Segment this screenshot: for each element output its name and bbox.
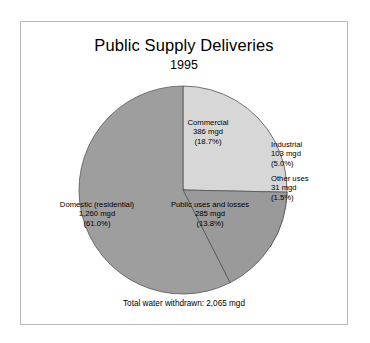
pie-label-other-uses: Other uses 31 mgd (1.5%) <box>271 174 333 202</box>
pie-label-public-uses-value: 285 mgd <box>164 209 256 218</box>
pie-label-domestic-name: Domestic (residential) <box>43 200 151 209</box>
pie-label-commercial-value: 386 mgd <box>169 127 247 136</box>
pie-label-commercial: Commercial 386 mgd (18.7%) <box>169 118 247 146</box>
pie-label-other-uses-name: Other uses <box>271 174 333 183</box>
pie-label-industrial: Industrial 103 mgd (5.0%) <box>271 140 333 168</box>
chart-footer-total: Total water withdrawn: 2,065 mgd <box>21 299 347 308</box>
pie-label-public-uses-and-losses: Public uses and losses 285 mgd (13.8%) <box>164 200 256 228</box>
pie-label-domestic-pct: (61.0%) <box>43 219 151 228</box>
pie-label-industrial-name: Industrial <box>271 140 333 149</box>
figure-frame: Public Supply Deliveries 1995 Commercial… <box>20 21 348 325</box>
pie-label-commercial-pct: (18.7%) <box>169 137 247 146</box>
pie-label-other-uses-value: 31 mgd <box>271 183 333 192</box>
pie-label-industrial-value: 103 mgd <box>271 149 333 158</box>
pie-label-domestic-residential: Domestic (residential) 1,260 mgd (61.0%) <box>43 200 151 228</box>
pie-label-domestic-value: 1,260 mgd <box>43 209 151 218</box>
pie-label-industrial-pct: (5.0%) <box>271 159 333 168</box>
pie-label-public-uses-pct: (13.8%) <box>164 219 256 228</box>
pie-label-commercial-name: Commercial <box>169 118 247 127</box>
pie-label-public-uses-name: Public uses and losses <box>164 200 256 209</box>
pie-label-other-uses-pct: (1.5%) <box>271 193 333 202</box>
pie-chart: Commercial 386 mgd (18.7%) Industrial 10… <box>21 22 349 326</box>
